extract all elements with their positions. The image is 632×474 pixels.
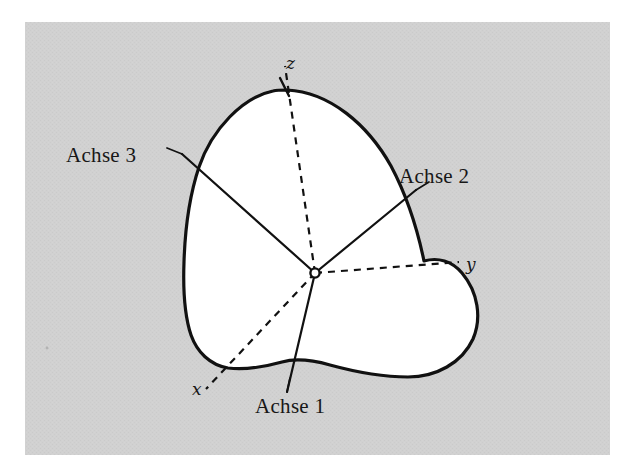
label-axis-y: y — [466, 256, 476, 273]
origin-point — [310, 268, 319, 277]
label-achse-2: Achse 2 — [399, 166, 469, 187]
label-achse-3: Achse 3 — [66, 145, 136, 166]
label-achse-1: Achse 1 — [255, 396, 325, 417]
scan-speck — [46, 347, 49, 350]
label-axis-x: x — [192, 381, 202, 398]
label-axis-z: z — [286, 55, 295, 72]
figure-root: Achse 3 Achse 2 Achse 1 z y x — [0, 0, 632, 474]
